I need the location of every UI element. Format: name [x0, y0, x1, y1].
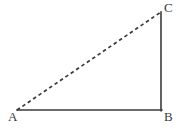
- triangle-svg: [0, 0, 180, 129]
- triangle-diagram: A B C: [0, 0, 180, 129]
- segment-ac-dashed-hypotenuse: [17, 12, 161, 110]
- vertex-label-b: B: [164, 110, 173, 123]
- vertex-label-a: A: [8, 110, 17, 123]
- vertex-label-c: C: [164, 1, 173, 14]
